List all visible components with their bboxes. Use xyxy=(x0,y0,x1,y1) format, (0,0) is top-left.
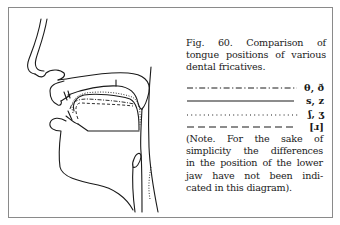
note-line: in the position of the lower xyxy=(186,157,323,169)
note-line: jaw have not been indi- xyxy=(186,170,323,182)
figure-legend: θ, ð s, z ʃ, ʒ [ɹ] xyxy=(186,81,326,133)
solid-line-icon xyxy=(186,94,298,107)
legend-item-dash-dot: θ, ð xyxy=(186,81,326,94)
note-line: simplicity the differences xyxy=(186,145,323,157)
dotted-line-icon xyxy=(186,107,298,120)
figure-caption: Fig. 60. Comparison of tongue positions … xyxy=(186,37,326,73)
legend-item-dashed: [ɹ] xyxy=(186,120,326,133)
caption-line: dental fricatives. xyxy=(186,61,326,73)
caption-line: Fig. 60. Comparison of xyxy=(186,37,326,49)
note-line: cated in this diagram). xyxy=(186,182,323,194)
legend-symbol: ʃ, ʒ xyxy=(308,107,324,120)
note-line: (Note. For the sake of xyxy=(186,133,323,145)
legend-item-solid: s, z xyxy=(186,94,326,107)
legend-symbol: [ɹ] xyxy=(309,120,324,133)
dashed-line-icon xyxy=(186,120,298,133)
legend-symbol: s, z xyxy=(306,94,324,107)
figure-note: (Note. For the sake of simplicity the di… xyxy=(186,133,323,194)
caption-line: tongue positions of various xyxy=(186,49,326,61)
legend-item-dotted: ʃ, ʒ xyxy=(186,107,326,120)
dash-dot-line-icon xyxy=(186,81,298,94)
sagittal-vocal-tract-diagram-icon xyxy=(8,7,178,218)
legend-symbol: θ, ð xyxy=(304,81,324,94)
